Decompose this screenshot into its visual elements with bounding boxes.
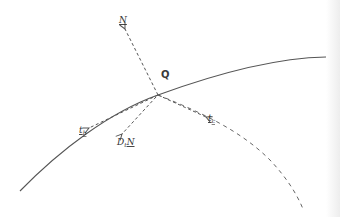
tangent-c-arrow — [158, 95, 206, 117]
geometry-diagram: Q N tc tb DtN — [0, 0, 340, 217]
tangent-b-label: tb — [79, 125, 87, 136]
normal-label: N — [118, 15, 128, 25]
tangent-c-label: tc — [208, 113, 216, 124]
derivative-n: N — [126, 137, 136, 147]
point-label-q: Q — [161, 69, 170, 80]
geodesic-curve — [158, 95, 303, 209]
tangent-b-arrow — [89, 95, 158, 128]
tangent-c-sub: c — [212, 117, 216, 124]
normal-vector-arrow — [125, 29, 158, 95]
derivative-d: D — [116, 137, 124, 147]
tangent-b-sub: b — [83, 129, 87, 136]
derivative-normal-label: DtN — [116, 137, 136, 148]
